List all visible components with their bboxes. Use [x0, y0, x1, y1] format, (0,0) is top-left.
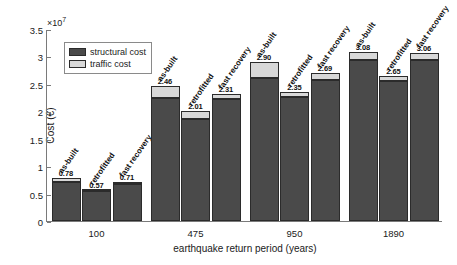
bar-segment-structural-cost	[82, 191, 111, 221]
y-tick-mark	[47, 222, 51, 223]
y-axis-exponent-power: 7	[62, 16, 66, 23]
y-tick-label: 0.5	[23, 189, 43, 200]
bar	[82, 190, 111, 221]
chart-legend: structural cost traffic cost	[64, 42, 152, 74]
bar-segment-structural-cost	[379, 81, 408, 221]
bar-category-label: fast recovery	[217, 45, 253, 91]
bar	[311, 73, 340, 221]
bar	[151, 86, 180, 221]
bar	[52, 178, 81, 221]
legend-swatch-traffic-cost	[69, 60, 86, 68]
bar	[280, 92, 309, 221]
legend-item-traffic-cost: traffic cost	[69, 58, 146, 70]
y-tick-label: 1.5	[23, 134, 43, 145]
x-tick-label: 1890	[383, 228, 404, 239]
bar-segment-traffic-cost	[280, 92, 309, 97]
y-tick-label: 2	[23, 107, 43, 118]
y-tick-mark	[47, 30, 51, 31]
y-axis-exponent: ×107	[47, 16, 66, 28]
bar-segment-structural-cost	[250, 78, 279, 221]
legend-label-traffic-cost: traffic cost	[90, 59, 131, 69]
y-tick-mark	[47, 112, 51, 113]
bar-category-label: fast recovery	[316, 24, 352, 70]
bar-segment-traffic-cost	[410, 53, 439, 60]
y-tick-label: 0	[23, 217, 43, 228]
y-tick-label: 3	[23, 52, 43, 63]
x-axis-label: earthquake return period (years)	[45, 243, 445, 254]
x-tick-label: 950	[287, 228, 303, 239]
bar	[410, 53, 439, 221]
y-tick-label: 2.5	[23, 79, 43, 90]
bar-segment-structural-cost	[151, 98, 180, 221]
bar-segment-structural-cost	[212, 99, 241, 221]
bar-segment-structural-cost	[52, 182, 81, 221]
y-tick-label: 1	[23, 162, 43, 173]
bar-segment-structural-cost	[280, 97, 309, 221]
bar-category-label: fast recovery	[415, 4, 451, 50]
legend-item-structural-cost: structural cost	[69, 46, 146, 58]
y-tick-label: 3.5	[23, 25, 43, 36]
x-tick-label: 475	[188, 228, 204, 239]
bar-segment-structural-cost	[311, 80, 340, 221]
bar-segment-traffic-cost	[181, 111, 210, 119]
bar-segment-structural-cost	[410, 60, 439, 221]
bar-segment-traffic-cost	[379, 76, 408, 81]
y-axis-exponent-base: ×10	[47, 18, 62, 28]
bar-segment-traffic-cost	[349, 52, 378, 60]
bar-segment-traffic-cost	[250, 62, 279, 78]
bar-segment-structural-cost	[181, 119, 210, 221]
bar-segment-traffic-cost	[52, 178, 81, 182]
bar	[113, 182, 142, 221]
bar	[349, 52, 378, 221]
y-tick-mark	[47, 85, 51, 86]
legend-swatch-structural-cost	[69, 48, 86, 56]
y-tick-mark	[47, 140, 51, 141]
bar-chart-figure: Cost (€) earthquake return period (years…	[0, 0, 457, 265]
legend-label-structural-cost: structural cost	[90, 47, 146, 57]
bar-category-label: fast recovery	[118, 133, 154, 179]
bar	[212, 94, 241, 221]
y-tick-mark	[47, 57, 51, 58]
bar-segment-traffic-cost	[212, 94, 241, 99]
y-tick-mark	[47, 167, 51, 168]
bar-segment-structural-cost	[113, 184, 142, 221]
plot-area: 00.511.522.533.5 1004759501890 0.78as-bu…	[46, 30, 442, 222]
bar	[181, 111, 210, 221]
bar	[379, 76, 408, 221]
y-tick-mark	[47, 195, 51, 196]
x-tick-label: 100	[89, 228, 105, 239]
bar-segment-traffic-cost	[311, 73, 340, 80]
bar	[250, 62, 279, 221]
bar-segment-traffic-cost	[151, 86, 180, 98]
bar-segment-structural-cost	[349, 60, 378, 221]
